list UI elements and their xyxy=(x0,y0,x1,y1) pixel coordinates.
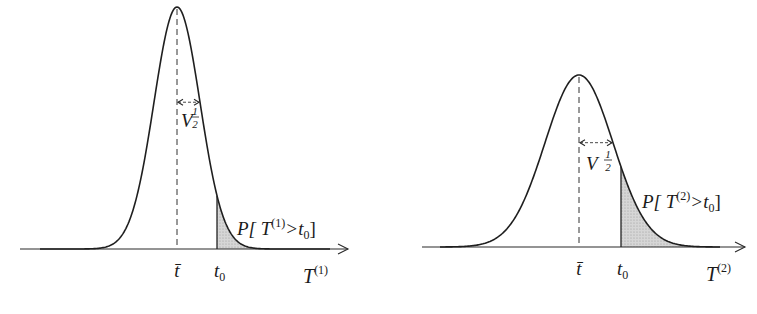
density-curve xyxy=(440,75,720,247)
std-dev-exponent-num: 1 xyxy=(192,105,198,117)
std-dev-arrow xyxy=(580,140,612,146)
threshold-label: t0 xyxy=(214,260,225,284)
panel-1-normal-distribution: V 1 2 t̄ t0 T(1) P[ T(1)>t0] xyxy=(20,7,348,287)
mean-label: t̄ xyxy=(174,260,181,281)
axis-label: T(1) xyxy=(303,263,328,287)
std-dev-exponent-den: 2 xyxy=(192,118,198,130)
axis-label: T(2) xyxy=(706,261,731,285)
std-dev-exponent-den: 2 xyxy=(605,161,611,173)
tail-probability-label: P[ T(2)>t0] xyxy=(641,189,721,215)
panel-2-normal-distribution: V 1 2 t̄ t0 T(2) P[ T(2)>t0] xyxy=(422,75,745,285)
std-dev-label: V xyxy=(586,153,600,174)
tail-probability-label: P[ T(1)>t0] xyxy=(236,216,316,242)
mean-label: t̄ xyxy=(576,258,583,279)
std-dev-exponent-num: 1 xyxy=(605,148,611,160)
diagram-canvas: V 1 2 t̄ t0 T(1) P[ T(1)>t0] V 1 2 t̄ t0… xyxy=(0,0,757,314)
threshold-label: t0 xyxy=(617,258,628,282)
